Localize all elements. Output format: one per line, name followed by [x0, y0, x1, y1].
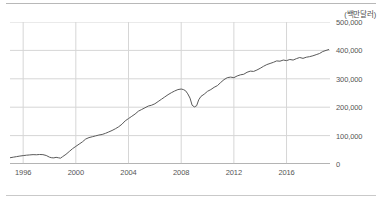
y-axis-tick-label: 200,000: [336, 103, 362, 112]
y-axis-labels: 0100,000200,000300,000400,000500,000: [336, 22, 382, 164]
series-line-foreign-reserves: [10, 50, 329, 159]
y-axis-tick-label: 400,000: [336, 46, 362, 55]
x-axis-tick-label: 2016: [278, 168, 294, 177]
vertical-gridlines: [23, 22, 286, 164]
x-axis-tick-label: 2000: [68, 168, 84, 177]
x-axis-tick-label: 2012: [226, 168, 242, 177]
x-axis-tick-label: 2004: [120, 168, 136, 177]
line-chart-svg: [10, 22, 330, 164]
y-axis-tick-label: 100,000: [336, 131, 362, 140]
x-axis-labels: 199620002004200820122016: [10, 168, 330, 182]
chart-figure: (백만달러) 0100,000200,000300,000400,000500,…: [0, 0, 382, 202]
x-axis-tick-label: 1996: [15, 168, 31, 177]
plot-area: [10, 22, 330, 164]
bottom-divider: [6, 195, 376, 196]
y-axis-tick-label: 500,000: [336, 18, 362, 27]
top-divider: [6, 3, 376, 4]
x-axis-tick-label: 2008: [173, 168, 189, 177]
y-axis-tick-label: 0: [336, 160, 340, 169]
y-axis-tick-label: 300,000: [336, 74, 362, 83]
